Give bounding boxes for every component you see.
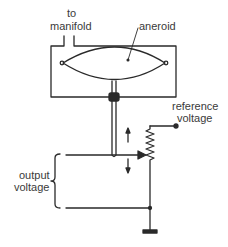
aneroid-capsule [63, 47, 165, 80]
seal [109, 93, 119, 101]
diagram-canvas: to manifold aneroid reference voltage ou… [0, 0, 228, 247]
output-brace [51, 154, 60, 208]
reference-label-line2: voltage [177, 112, 212, 124]
ground-icon [143, 230, 157, 233]
aneroid-sensor-diagram: to manifold aneroid reference voltage ou… [0, 0, 228, 247]
capsule-left-crimp [60, 61, 64, 65]
manifold-label-line2: manifold [50, 20, 92, 32]
reference-label-line1: reference [172, 100, 218, 112]
output-label-line2: voltage [14, 181, 49, 193]
potentiometer [146, 126, 154, 208]
reference-terminal [174, 124, 178, 128]
aneroid-label: aneroid [139, 20, 176, 32]
output-label-line1: output [19, 169, 50, 181]
capsule-right-crimp [164, 61, 168, 65]
push-rod [112, 81, 116, 157]
manifold-label-line1: to [67, 7, 76, 19]
aneroid-leader [128, 28, 138, 60]
